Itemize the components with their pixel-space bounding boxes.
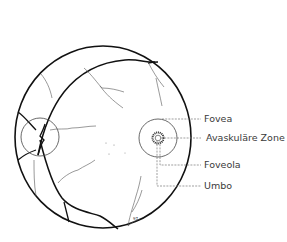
retina-diagram: 97 [0, 0, 287, 242]
fundus-dots [105, 142, 125, 154]
corner-mark: 97 [133, 216, 139, 221]
label-fovea: Fovea [204, 114, 232, 124]
label-avascular-zone: Avaskuläre Zone [206, 133, 285, 143]
thin-vessels [34, 62, 164, 226]
vessel-left-upper [18, 112, 36, 130]
label-umbo: Umbo [204, 181, 232, 191]
major-vessel-upper [38, 60, 155, 155]
foveola-circle [155, 135, 161, 141]
major-vessel-lower [40, 140, 118, 229]
vessel-top-right-branch [148, 62, 158, 63]
label-foveola: Foveola [204, 160, 241, 170]
leader-lines [157, 119, 201, 186]
